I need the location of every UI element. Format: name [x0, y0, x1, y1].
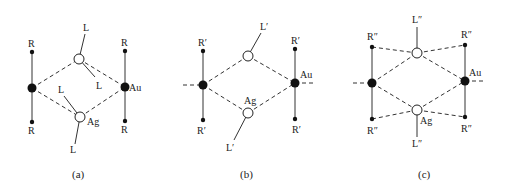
- r-label: R″: [367, 31, 378, 42]
- panel-caption-c: (c): [418, 168, 431, 181]
- au-label: Au: [129, 82, 141, 93]
- r-label: R′: [291, 35, 300, 46]
- r-ag-interaction: [372, 110, 417, 119]
- r-group-dot: [123, 49, 127, 53]
- au-atom: [199, 81, 208, 90]
- r-group-dot: [123, 119, 127, 123]
- au-label: Au: [300, 69, 312, 80]
- ag-atom: [243, 51, 253, 61]
- panel-a: R R R R L L L L Au Ag (a): [28, 22, 142, 181]
- r-group-dot: [293, 47, 297, 51]
- au-atom: [291, 79, 300, 88]
- r-ag-interaction: [372, 47, 417, 53]
- r-group-dot: [30, 50, 34, 54]
- l-label: L′: [260, 21, 268, 32]
- r-group-dot: [201, 118, 205, 122]
- ag-label: Ag: [420, 115, 432, 126]
- l-label: L″: [412, 14, 422, 25]
- r-group-dot: [463, 43, 467, 47]
- ag-atom: [75, 112, 85, 122]
- r-ag-interaction: [417, 45, 465, 53]
- l-label: L: [96, 80, 102, 91]
- l-label: L″: [412, 138, 422, 149]
- au-ag-interaction: [32, 88, 80, 117]
- r-group-dot: [201, 49, 205, 53]
- ag-atom: [243, 108, 253, 118]
- au-ag-interaction: [203, 85, 248, 113]
- r-label: R″: [461, 29, 472, 40]
- au-label: Au: [469, 67, 481, 78]
- ag-label: Ag: [87, 116, 99, 127]
- r-label: R′: [198, 37, 207, 48]
- ag-atom: [74, 54, 84, 64]
- au-atom: [368, 79, 377, 88]
- au-ag-interaction: [417, 81, 465, 110]
- l-label: L: [70, 144, 76, 155]
- au-ag-interaction: [203, 56, 248, 85]
- au-atom: [28, 84, 37, 93]
- panel-b: R′ R′ R′ R′ L′ L′ Au Ag (b): [183, 21, 316, 181]
- ag-label: Ag: [244, 95, 256, 106]
- au-ag-interaction: [32, 59, 79, 88]
- r-label: R: [121, 124, 128, 135]
- r-group-dot: [370, 117, 374, 121]
- r-label: R″: [367, 125, 378, 136]
- figure-canvas: R R R R L L L L Au Ag (a): [0, 0, 507, 192]
- l-label: L: [83, 22, 89, 33]
- ag-atom: [412, 105, 422, 115]
- panel-caption-b: (b): [240, 168, 253, 181]
- r-group-dot: [370, 45, 374, 49]
- r-group-dot: [30, 120, 34, 124]
- ag-atom: [412, 48, 422, 58]
- r-label: R: [28, 125, 35, 136]
- au-ag-interaction: [80, 87, 125, 117]
- r-group-dot: [463, 115, 467, 119]
- l-label: L′: [226, 142, 234, 153]
- au-ag-interaction: [372, 83, 417, 110]
- r-group-dot: [293, 117, 297, 121]
- r-label: R′: [292, 124, 301, 135]
- panel-c: R″ R″ R″ R″ L″ L″ Au Ag (c): [353, 14, 485, 181]
- r-label: R″: [461, 123, 472, 134]
- au-ag-interaction: [248, 56, 295, 83]
- l-label: L: [58, 84, 64, 95]
- r-label: R: [28, 38, 35, 49]
- panel-caption-a: (a): [72, 168, 85, 181]
- au-ag-interaction: [372, 53, 417, 83]
- au-ag-interaction: [417, 53, 465, 81]
- r-label: R′: [197, 125, 206, 136]
- r-label: R: [121, 37, 128, 48]
